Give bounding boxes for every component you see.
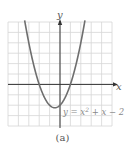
equation-label: y = x2 + x − 2 — [62, 106, 124, 118]
figure-caption: (a) — [0, 132, 125, 143]
x-axis-label: x — [116, 81, 122, 92]
equation-tail: + x − 2 — [89, 107, 124, 117]
y-axis-label: y — [56, 9, 63, 20]
equation-base: y = x — [62, 107, 85, 117]
